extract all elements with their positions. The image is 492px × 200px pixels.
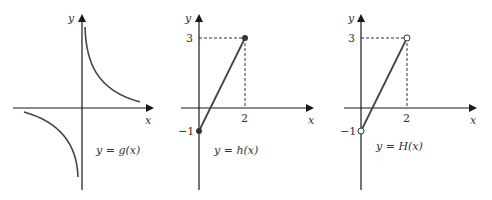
closed-endpoint-top	[242, 35, 248, 41]
open-endpoint-bottom	[358, 128, 364, 134]
line-segment	[363, 41, 406, 128]
x-tick-2: 2	[403, 112, 410, 125]
line-segment	[199, 38, 245, 131]
x-axis-label: x	[308, 114, 315, 127]
y-tick-neg1: −1	[178, 125, 194, 138]
figure-canvas: y x y = g(x) y x 3 −1 2 y = h(x) y x 3 −…	[0, 0, 492, 200]
x-axis-label: x	[145, 114, 152, 127]
y-axis-label: y	[347, 12, 355, 25]
x-axis-label: x	[470, 114, 477, 127]
y-axis-label: y	[67, 12, 75, 25]
closed-endpoint-bottom	[196, 128, 202, 134]
graph-h: y x 3 −1 2 y = h(x)	[178, 12, 315, 190]
graph-H: y x 3 −1 2 y = H(x)	[340, 12, 477, 190]
curve-branch-upper	[85, 27, 140, 102]
curve-branch-lower	[24, 112, 78, 177]
open-endpoint-top	[404, 35, 410, 41]
caption: y = h(x)	[213, 144, 258, 157]
caption: y = g(x)	[95, 144, 140, 157]
y-tick-3: 3	[186, 32, 193, 45]
y-axis-label: y	[184, 12, 192, 25]
x-tick-2: 2	[241, 112, 248, 125]
y-tick-3: 3	[348, 32, 355, 45]
caption: y = H(x)	[375, 140, 423, 153]
y-tick-neg1: −1	[340, 125, 356, 138]
graph-g: y x y = g(x)	[13, 12, 152, 190]
